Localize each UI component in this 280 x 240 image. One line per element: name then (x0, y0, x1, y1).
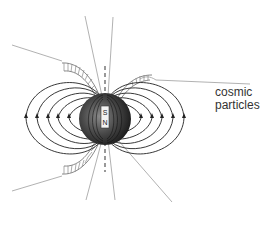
bar-magnet: S N (101, 106, 109, 128)
magnet-south-label: S (103, 109, 108, 116)
magnet-north-label: N (102, 119, 107, 126)
cosmic-particles-label-line2: particles (215, 99, 260, 112)
